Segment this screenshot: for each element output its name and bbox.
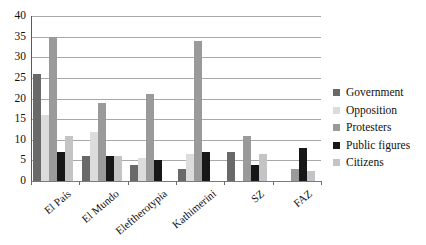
bar [33, 74, 41, 181]
bar [146, 94, 154, 181]
legend-label: Opposition [346, 105, 397, 117]
x-tick-mark [224, 181, 225, 185]
y-tick-label: 5 [20, 155, 31, 167]
legend-label: Government [346, 87, 403, 99]
x-tick-mark [79, 181, 80, 185]
x-category-label: El País [42, 188, 73, 216]
x-category-label: Kathimerini [170, 188, 218, 231]
bar [82, 156, 90, 181]
legend-item: Protesters [333, 119, 425, 137]
legend-label: Protesters [346, 122, 391, 134]
bar [57, 152, 65, 181]
plot-area [31, 16, 321, 181]
bar [138, 158, 146, 181]
x-category-label: Eleftherotypia [114, 188, 169, 237]
y-tick-label: 40 [15, 10, 32, 22]
legend-item: Public figures [333, 137, 425, 155]
y-tick-label: 35 [15, 31, 32, 43]
bar-cluster [227, 16, 267, 181]
bar [98, 103, 106, 181]
bar [259, 154, 267, 181]
bar-cluster [33, 16, 73, 181]
x-category-label: FAZ [292, 188, 314, 209]
bar [202, 152, 210, 181]
chart-legend: GovernmentOppositionProtestersPublic fig… [333, 84, 425, 172]
y-tick-label: 0 [20, 175, 31, 187]
bar-cluster [82, 16, 122, 181]
bar-cluster [130, 16, 170, 181]
bar [49, 37, 57, 181]
bar [251, 165, 259, 182]
x-tick-mark [128, 181, 129, 185]
legend-label: Public figures [346, 140, 410, 152]
bar [90, 132, 98, 182]
bar [194, 41, 202, 181]
bar [186, 154, 194, 181]
x-category-label: SZ [249, 188, 266, 205]
legend-item: Opposition [333, 102, 425, 120]
x-category-label: El Mundo [80, 188, 121, 225]
x-tick-mark [321, 181, 322, 185]
bar [291, 169, 299, 181]
y-tick-label: 15 [15, 113, 32, 125]
legend-swatch-icon [333, 107, 340, 114]
bar-chart: 0510152025303540 El PaísEl MundoElefther… [0, 0, 426, 245]
bar [227, 152, 235, 181]
bar [243, 136, 251, 181]
legend-swatch-icon [333, 89, 340, 96]
x-tick-mark [176, 181, 177, 185]
bar [114, 156, 122, 181]
bar [307, 171, 315, 181]
bar [65, 136, 73, 181]
bar-cluster [178, 16, 218, 181]
legend-swatch-icon [333, 159, 340, 166]
legend-item: Government [333, 84, 425, 102]
x-tick-mark [273, 181, 274, 185]
bar [178, 169, 186, 181]
x-tick-mark [31, 181, 32, 185]
legend-item: Citizens [333, 154, 425, 172]
y-tick-label: 30 [15, 52, 32, 64]
bar [130, 165, 138, 182]
y-tick-label: 25 [15, 72, 32, 84]
y-axis-line [31, 16, 32, 182]
bar [299, 148, 307, 181]
bar [106, 156, 114, 181]
bar [41, 115, 49, 181]
bars-layer [31, 16, 321, 181]
legend-swatch-icon [333, 124, 340, 131]
y-tick-label: 20 [15, 93, 32, 105]
bar [154, 160, 162, 181]
y-tick-label: 10 [15, 134, 32, 146]
legend-label: Citizens [346, 157, 384, 169]
legend-swatch-icon [333, 142, 340, 149]
bar-cluster [275, 16, 315, 181]
